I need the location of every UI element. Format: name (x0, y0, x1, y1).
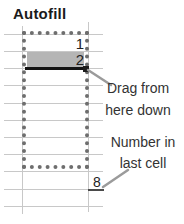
autofill-diagram: Autofill 1 2 Drag from here down Number … (0, 0, 184, 224)
number-annotation-line2: last cell (104, 153, 182, 174)
drag-annotation-line1: Drag from (98, 77, 178, 99)
cell-value-last: 8 (90, 175, 104, 189)
cell-value-first: 1 (46, 36, 84, 51)
cell-value-second: 2 (46, 52, 84, 67)
last-cell-underline (88, 189, 104, 191)
drag-annotation-line2: here down (98, 99, 178, 121)
selection-bottom-border (25, 67, 87, 70)
number-annotation: Number in last cell (104, 132, 182, 174)
number-annotation-line1: Number in (104, 132, 182, 153)
fill-handle-icon[interactable] (83, 66, 89, 72)
drag-annotation: Drag from here down (98, 77, 178, 121)
page-title: Autofill (13, 5, 66, 23)
